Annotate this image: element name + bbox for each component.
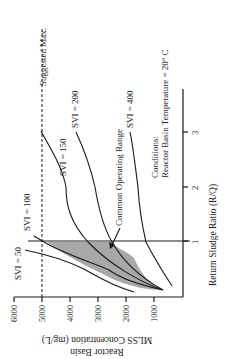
label-svi-200: SVI = 200 — [70, 90, 80, 128]
x-tick-label-1: 1 — [190, 240, 200, 244]
label-svi-100: SVI = 100 — [22, 193, 32, 231]
label-common-range: Common Operating Range — [114, 129, 124, 226]
y-axis-title-line-1: Reactor Basin — [70, 347, 124, 357]
x-tick-label-2: 2 — [190, 186, 200, 190]
label-svi-50: SVI = 50 — [13, 246, 23, 280]
y-tick-label-5000: 5000 — [37, 305, 47, 322]
y-tick-label-6000: 6000 — [9, 305, 19, 322]
label-suggested-max: Suggested Max. — [38, 28, 48, 86]
label-conditions-2: Reactor Basin Temperature = 20° C — [160, 49, 170, 178]
label-svi-150: SVI = 150 — [58, 138, 68, 176]
y-tick-label-3000: 3000 — [93, 305, 103, 322]
y-axis-title-line-2: MLSS Concentration (mg/L) — [42, 334, 152, 345]
x-axis-title: Return Sludge Ratio (R/Q) — [208, 184, 219, 286]
label-conditions-1: Conditions: — [150, 136, 160, 178]
y-tick-label-2000: 2000 — [121, 305, 131, 322]
label-svi-400: SVI = 400 — [125, 90, 135, 128]
y-tick-label-1000: 1000 — [149, 305, 159, 322]
chart: SVI = 50 SVI = 100 SVI = 150 SVI = 200 S… — [0, 0, 230, 359]
common-range-arrow — [112, 228, 120, 245]
x-tick-label-3: 3 — [190, 131, 200, 135]
y-tick-label-4000: 4000 — [65, 305, 75, 322]
